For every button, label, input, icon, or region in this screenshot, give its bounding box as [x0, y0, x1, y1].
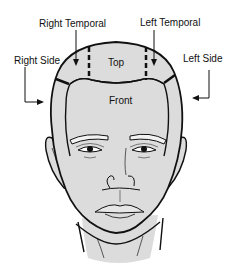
label-front: Front: [109, 95, 132, 106]
label-right-side: Right Side: [14, 55, 60, 66]
left-side-arrow: [194, 70, 209, 98]
head-regions-diagram: Right Temporal Left Temporal Right Side …: [0, 0, 233, 273]
label-right-temporal: Right Temporal: [39, 18, 106, 29]
head-outline: [51, 42, 182, 233]
label-left-side: Left Side: [183, 53, 222, 64]
label-top: Top: [108, 57, 124, 68]
right-side-arrow: [25, 67, 42, 102]
label-left-temporal: Left Temporal: [140, 17, 200, 28]
head-illustration: [0, 0, 233, 273]
